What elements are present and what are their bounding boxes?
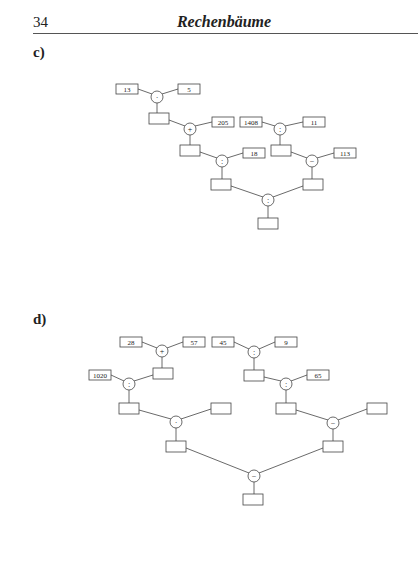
answer-box[interactable]: [149, 113, 169, 124]
value-9: 9: [284, 339, 288, 347]
value-1408: 1408: [244, 119, 259, 127]
minus-operator: −: [331, 419, 336, 428]
answer-box[interactable]: [211, 403, 231, 414]
answer-box[interactable]: [303, 179, 323, 190]
value-113: 113: [340, 150, 351, 158]
value-28: 28: [128, 339, 136, 347]
divide-operator: :: [285, 380, 287, 389]
answer-box[interactable]: [276, 403, 296, 414]
divide-operator: :: [221, 157, 223, 166]
answer-box[interactable]: [244, 370, 264, 381]
value-57: 57: [191, 339, 199, 347]
answer-box[interactable]: [166, 441, 186, 452]
value-18: 18: [251, 150, 259, 158]
answer-box[interactable]: [180, 145, 200, 156]
value-5: 5: [187, 86, 191, 94]
answer-box[interactable]: [211, 179, 231, 190]
answer-box[interactable]: [271, 145, 291, 156]
answer-box[interactable]: [119, 403, 139, 414]
divide-operator: :: [253, 348, 255, 357]
value-11: 11: [311, 119, 318, 127]
divide-operator: :: [279, 125, 281, 134]
minus-operator: −: [310, 157, 315, 166]
plus-operator: +: [160, 347, 165, 356]
value-45: 45: [220, 339, 228, 347]
value-65: 65: [315, 372, 323, 380]
multiply-operator: ·: [156, 93, 159, 102]
final-answer-box[interactable]: [258, 218, 278, 229]
minus-operator: −: [252, 472, 257, 481]
answer-box[interactable]: [153, 368, 173, 379]
answer-box[interactable]: [367, 403, 387, 414]
divide-operator: :: [128, 380, 130, 389]
value-205: 205: [218, 119, 229, 127]
answer-box[interactable]: [323, 441, 343, 452]
multiply-operator: ·: [175, 418, 178, 427]
value-13: 13: [124, 86, 132, 94]
divide-operator: :: [267, 196, 269, 205]
value-1020: 1020: [93, 372, 108, 380]
calculation-trees: 13 5 205 18 1408 11 113 28 57 1020 45 9 …: [0, 0, 418, 583]
plus-operator: +: [188, 125, 193, 134]
final-answer-box[interactable]: [243, 494, 263, 505]
